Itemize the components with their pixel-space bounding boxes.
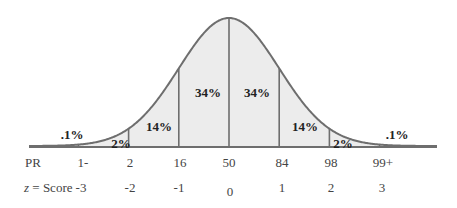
z-tick: 2 (328, 180, 335, 196)
pr-tick: 98 (325, 155, 338, 171)
z-label-text: = Score (29, 180, 72, 195)
z-tick: 3 (379, 180, 386, 196)
pct-label-neg2-neg1: 14% (146, 119, 172, 135)
z-tick: -3 (76, 180, 87, 196)
pr-tick: 16 (174, 155, 187, 171)
pct-label-0-1: 34% (244, 85, 270, 101)
z-tick: 0 (227, 184, 234, 200)
pct-label-right-tail: .1% (386, 127, 409, 143)
pct-label-left-tail: .1% (61, 127, 84, 143)
pct-label-1-2: 14% (292, 119, 318, 135)
z-tick: -2 (125, 180, 136, 196)
z-score-row-label: z = Score (24, 180, 73, 196)
pr-row-label: PR (25, 155, 41, 171)
pr-tick: 99+ (373, 155, 393, 171)
pr-tick: 84 (276, 155, 289, 171)
sd-dividers (78, 18, 379, 147)
pct-label-neg3-neg2: 2% (111, 136, 131, 152)
pr-tick: 50 (223, 155, 236, 171)
pr-tick: 1- (78, 155, 89, 171)
z-tick: -1 (174, 180, 185, 196)
pct-label-neg1-0: 34% (195, 85, 221, 101)
pct-label-2-3: 2% (333, 136, 353, 152)
pr-tick: 2 (127, 155, 134, 171)
z-tick: 1 (279, 180, 286, 196)
bell-curve-chart (0, 0, 457, 208)
